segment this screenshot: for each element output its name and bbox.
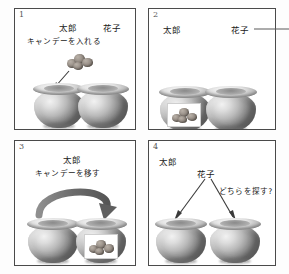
panel-1-content: 1 太郎 花子 キャンデーを入れる <box>15 9 135 129</box>
pot-icon <box>75 82 131 128</box>
down-left-arrow-icon <box>174 179 205 221</box>
panel-3-content: 3 太郎 キャンデーを移す <box>15 141 135 265</box>
panel-hanako-leaves: 2 太郎 花子 <box>148 8 276 130</box>
down-right-arrow-icon <box>211 179 236 221</box>
panel-where-will-hanako-look: 4 太郎 花子 どちらを探す? <box>148 140 276 266</box>
panel-4-content: 4 太郎 花子 どちらを探す? <box>149 141 275 265</box>
panel-taro-moves-candy: 3 太郎 キャンデーを移す <box>14 140 136 266</box>
panel-put-candy-in: 1 太郎 花子 キャンデーを入れる <box>14 8 136 130</box>
right-exit-arrow-icon <box>149 9 289 131</box>
pot-with-candy-icon <box>73 217 129 263</box>
comic-strip-figure: 1 太郎 花子 キャンデーを入れる <box>0 0 289 274</box>
candy-cluster-icon <box>89 240 115 256</box>
pot-icon <box>207 217 263 263</box>
pot-icon <box>153 217 209 263</box>
